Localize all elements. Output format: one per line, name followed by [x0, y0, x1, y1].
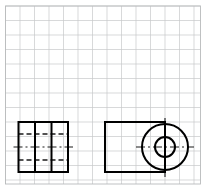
front-view-drawing: [105, 118, 194, 177]
side-view-drawing: [14, 122, 74, 172]
drawing-sheet: [0, 0, 207, 190]
technical-drawing-canvas: [0, 0, 207, 190]
